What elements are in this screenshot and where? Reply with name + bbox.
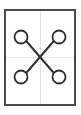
node-top-right: [53, 31, 66, 44]
node-bottom-right: [53, 71, 66, 84]
node-top-left: [15, 31, 28, 44]
x-linkage-diagram-svg: [0, 0, 81, 115]
node-bottom-left: [15, 71, 28, 84]
diagram-container: [0, 0, 81, 115]
